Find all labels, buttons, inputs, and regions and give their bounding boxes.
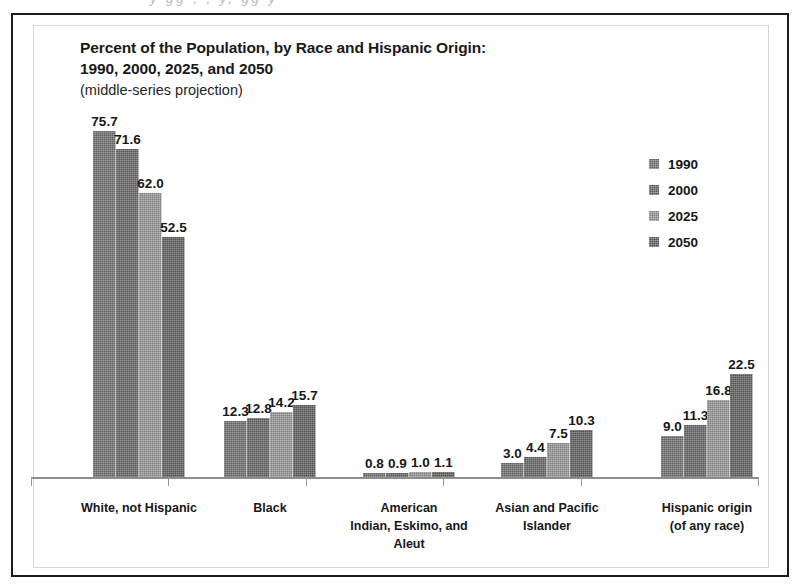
category-label-line: Aleut — [329, 535, 489, 553]
bar-1990-1[interactable] — [93, 131, 116, 477]
x-axis-tick-2 — [168, 477, 169, 486]
x-axis-category-label-3: AmericanIndian, Eskimo, andAleut — [329, 499, 489, 553]
x-axis-line — [31, 477, 759, 479]
bar-value-label: 22.5 — [723, 357, 760, 372]
plot-area: 75.771.662.052.512.312.814.215.70.80.91.… — [13, 15, 791, 579]
bar-1990-2[interactable] — [224, 421, 247, 477]
bar-2050-2[interactable] — [293, 405, 316, 477]
category-label-line: Asian and Pacific — [467, 499, 627, 517]
bar-value-label: 15.7 — [286, 388, 323, 403]
x-axis-tick-5 — [581, 477, 582, 486]
x-axis-category-label-5: Hispanic origin(of any race) — [627, 499, 787, 535]
category-label-line: Black — [190, 499, 350, 517]
bar-value-label: 52.5 — [155, 220, 192, 235]
bar-2000-2[interactable] — [247, 418, 270, 477]
bar-value-label: 75.7 — [86, 114, 123, 129]
scan-artifact-text: y gg , , y, gg y — [150, 0, 278, 6]
bar-2025-1[interactable] — [139, 193, 162, 477]
scan-artifact-strip: y gg , , y, gg y — [0, 0, 796, 14]
bars-container: 75.771.662.052.512.312.814.215.70.80.91.… — [31, 111, 771, 477]
bar-2000-1[interactable] — [116, 149, 139, 477]
category-label-line: American — [329, 499, 489, 517]
bar-value-label: 10.3 — [563, 413, 600, 428]
category-label-line: Indian, Eskimo, and — [329, 517, 489, 535]
bar-2025-5[interactable] — [707, 400, 730, 477]
x-axis-category-label-2: Black — [190, 499, 350, 517]
bar-value-label: 1.1 — [425, 455, 462, 470]
bar-1990-4[interactable] — [501, 463, 524, 477]
bar-1990-5[interactable] — [661, 436, 684, 477]
x-axis-category-label-4: Asian and PacificIslander — [467, 499, 627, 535]
category-label-line: (of any race) — [627, 517, 787, 535]
bar-2050-5[interactable] — [730, 374, 753, 477]
bar-2000-5[interactable] — [684, 425, 707, 477]
category-label-line: Hispanic origin — [627, 499, 787, 517]
x-axis-tick-1 — [31, 477, 32, 486]
category-label-line: Islander — [467, 517, 627, 535]
bar-value-label: 62.0 — [132, 176, 169, 191]
x-axis-tick-4 — [443, 477, 444, 486]
bar-2025-2[interactable] — [270, 412, 293, 477]
bar-2025-4[interactable] — [547, 443, 570, 477]
x-axis-tick-3 — [306, 477, 307, 486]
bar-2050-1[interactable] — [162, 237, 185, 477]
bar-2050-4[interactable] — [570, 430, 593, 477]
figure-frame: Percent of the Population, by Race and H… — [11, 13, 789, 577]
bar-value-label: 71.6 — [109, 132, 146, 147]
x-axis-tick-6 — [758, 477, 759, 486]
bar-2000-4[interactable] — [524, 457, 547, 477]
